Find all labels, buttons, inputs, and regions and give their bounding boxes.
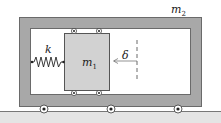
label-m1-text: m [82, 56, 92, 69]
roller-icon [96, 90, 101, 95]
wheel-icon [174, 105, 182, 113]
roller-icon [96, 28, 101, 33]
wheel-icon [107, 105, 115, 113]
wheel-icon [40, 105, 48, 113]
label-m2-sub: 2 [181, 10, 185, 18]
label-k-text: k [45, 43, 52, 56]
label-m1-sub: 1 [92, 63, 96, 71]
label-m2: m2 [171, 4, 186, 18]
label-delta: δ [122, 50, 129, 61]
label-delta-text: δ [122, 49, 129, 62]
diagram-canvas [0, 0, 221, 123]
roller-icon [71, 90, 76, 95]
roller-icon [71, 28, 76, 33]
label-k: k [45, 44, 52, 55]
spring-anchor-right [62, 61, 64, 63]
spring-anchor-left [31, 61, 33, 63]
label-m2-text: m [171, 3, 181, 16]
label-m1: m1 [82, 57, 97, 71]
